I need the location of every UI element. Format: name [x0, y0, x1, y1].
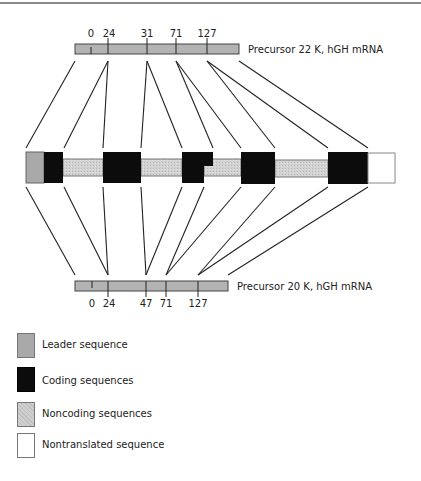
- legend-label: Coding sequences: [42, 375, 134, 386]
- tick-20k-0: 0: [89, 298, 95, 309]
- legend-item-coding: Coding sequences: [17, 367, 217, 393]
- legend-label: Noncoding sequences: [42, 408, 152, 419]
- tick-22k-24: 24: [103, 28, 116, 39]
- legend-label: Leader sequence: [42, 339, 128, 350]
- noncoding-2: [141, 159, 182, 176]
- noncoding-1: [63, 159, 103, 176]
- leader-swatch: [17, 333, 35, 358]
- precursor-22k-bar: 0 24 31 71 127 Precursor 22 K, hGH mRNA: [75, 28, 383, 55]
- tick-22k-31: 31: [141, 28, 154, 39]
- noncoding-swatch: [17, 402, 35, 427]
- tick-20k-71: 71: [160, 298, 173, 309]
- precursor-20k-label: Precursor 20 K, hGH mRNA: [237, 281, 372, 292]
- gene-structure: [26, 152, 395, 184]
- hgh-splicing-diagram: 0 24 31 71 127 Precursor 22 K, hGH mRNA: [0, 0, 421, 320]
- legend-item-leader: Leader sequence: [17, 333, 217, 359]
- legend-item-noncoding: Noncoding sequences: [17, 402, 217, 428]
- connectors-20k: [26, 187, 368, 275]
- coding-4: [241, 152, 275, 184]
- tick-22k-71: 71: [170, 28, 183, 39]
- legend-label: Nontranslated sequence: [42, 439, 164, 450]
- tick-20k-24: 24: [103, 298, 116, 309]
- coding-swatch: [17, 367, 35, 392]
- coding-1: [44, 152, 63, 183]
- leader-segment: [26, 152, 44, 183]
- legend-item-nontranslated: Nontranslated sequence: [17, 433, 217, 459]
- tick-22k-0: 0: [88, 28, 94, 39]
- noncoding-4: [275, 160, 328, 177]
- coding-2: [103, 152, 141, 183]
- coding-5: [328, 152, 368, 184]
- tick-22k-127: 127: [197, 28, 216, 39]
- precursor-22k-label: Precursor 22 K, hGH mRNA: [248, 44, 383, 55]
- nontranslated-swatch: [17, 433, 35, 458]
- connectors-22k: [26, 61, 368, 148]
- tick-20k-47: 47: [140, 298, 153, 309]
- nontranslated-segment: [368, 153, 395, 183]
- precursor-20k-bar: 0 24 47 71 127 Precursor 20 K, hGH mRNA: [75, 281, 372, 309]
- tick-20k-127: 127: [188, 298, 207, 309]
